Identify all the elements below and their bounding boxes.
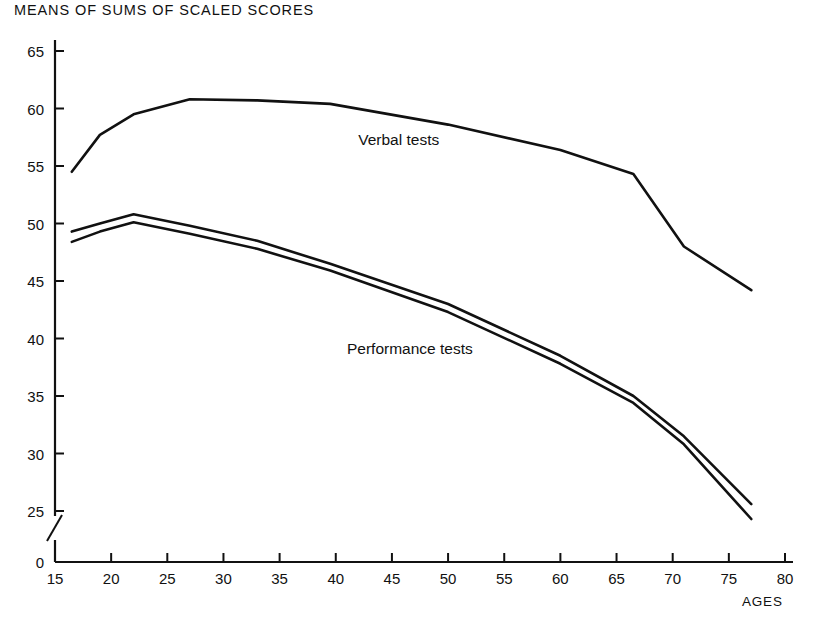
x-tick-label: 70 <box>656 570 690 587</box>
y-tick-label: 60 <box>10 100 44 117</box>
x-tick-label: 15 <box>38 570 72 587</box>
y-tick-label: 55 <box>10 158 44 175</box>
chart-container: MEANS OF SUMS OF SCALED SCORES 025303540… <box>0 0 820 626</box>
x-axis-title: AGES <box>742 594 783 609</box>
plot-area <box>0 0 820 626</box>
y-tick-label: 50 <box>10 215 44 232</box>
series-label: Verbal tests <box>358 131 439 149</box>
data-series <box>72 99 752 519</box>
x-tick-label: 75 <box>712 570 746 587</box>
y-tick-label: 30 <box>10 445 44 462</box>
y-tick-label: 45 <box>10 273 44 290</box>
x-tick-label: 55 <box>487 570 521 587</box>
x-tick-label: 45 <box>375 570 409 587</box>
y-tick-label: 25 <box>10 503 44 520</box>
y-tick-label: 0 <box>10 554 44 571</box>
y-tick-label: 65 <box>10 43 44 60</box>
series-label: Performance tests <box>347 340 473 358</box>
x-tick-label: 65 <box>600 570 634 587</box>
y-tick-label: 35 <box>10 388 44 405</box>
x-tick-label: 25 <box>150 570 184 587</box>
x-tick-label: 20 <box>94 570 128 587</box>
x-tick-label: 80 <box>768 570 802 587</box>
x-tick-label: 40 <box>319 570 353 587</box>
tick-marks <box>55 51 785 562</box>
x-tick-label: 50 <box>431 570 465 587</box>
chart-title: MEANS OF SUMS OF SCALED SCORES <box>14 2 314 18</box>
x-tick-label: 35 <box>263 570 297 587</box>
x-tick-label: 60 <box>543 570 577 587</box>
x-tick-label: 30 <box>206 570 240 587</box>
y-tick-label: 40 <box>10 330 44 347</box>
